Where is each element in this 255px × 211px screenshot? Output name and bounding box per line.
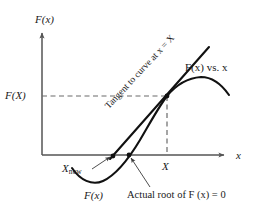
curve-label-upper: F(x) vs. x <box>185 62 227 73</box>
x-axis-label: x <box>236 150 241 161</box>
leader-x-new-line <box>92 157 110 169</box>
x-new-subscript: new <box>69 167 82 176</box>
actual-root-label: Actual root of F (x) = 0 <box>127 190 226 201</box>
newton-raphson-figure: F(x) F(X) x X Xnew F(x) F(x) vs. x Actua… <box>0 0 255 211</box>
x-new-intercept-marker <box>111 154 116 159</box>
actual-root-marker <box>127 153 132 158</box>
x-new-base: X <box>62 162 69 174</box>
curve-label-lower: F(x) <box>84 190 103 201</box>
leader-actual-root-line <box>131 158 150 187</box>
y-axis-label: F(x) <box>35 14 54 25</box>
x-tick-label: X <box>162 161 169 172</box>
tangency-point-marker <box>165 94 170 99</box>
x-new-label: Xnew <box>62 163 82 175</box>
axes <box>42 33 224 155</box>
f-of-X-value-label: F(X) <box>5 90 26 101</box>
figure-canvas <box>0 0 255 211</box>
